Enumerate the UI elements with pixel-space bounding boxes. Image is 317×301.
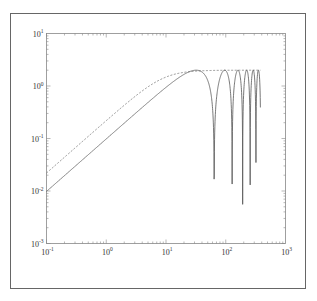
chart-figure: 10-110010110210310-310-210-1100101 (0, 0, 317, 301)
